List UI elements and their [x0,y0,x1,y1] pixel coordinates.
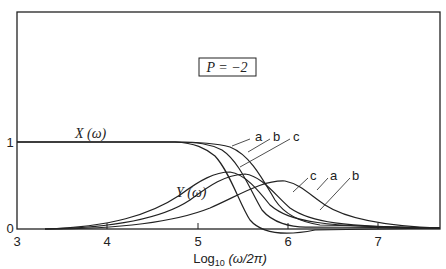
x-curves [17,142,440,233]
x-tick-label: 7 [374,234,381,249]
y-curve-name: Y (ω) [176,185,207,201]
y-tick-label: 1 [6,135,13,150]
y-series-label-a: a [330,168,338,183]
x-tick-label: 4 [103,234,110,249]
x-tick-label: 5 [194,234,201,249]
x-series-label-c: c [293,129,300,144]
x-series-label-a: a [255,129,263,144]
y-tick-label: 0 [6,221,13,236]
x-axis-label: Log10 (ω/2π) [193,251,267,268]
y-series-label-c: c [310,168,317,183]
annotation-text: P = −2 [205,60,247,75]
x-tick-label: 6 [284,234,291,249]
x-tick-label: 3 [13,234,20,249]
y-label-leaders [293,178,350,210]
y-curves [45,172,440,229]
y-series-label-b: b [352,168,359,183]
plot-frame [17,12,440,229]
chart: 3 4 5 6 7 0 1 Log10 (ω/2π) P = −2 a b c … [0,0,446,269]
x-curve-name: X (ω) [74,126,107,142]
x-series-label-b: b [273,129,280,144]
